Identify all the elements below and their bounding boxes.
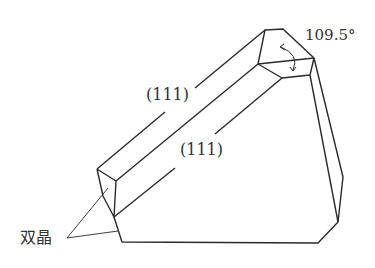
face-label-lower: (111) [180,142,223,158]
left-cap-outline [97,169,116,217]
face-label-upper: (111) [146,87,189,103]
twin-pointer-1 [67,188,108,238]
twin-pointer-2 [67,231,118,238]
twin-label: 双晶 [20,230,52,246]
angle-arc-icon [281,47,295,70]
angle-label: 109.5° [305,28,355,43]
top-cap-middle-line [258,58,314,64]
